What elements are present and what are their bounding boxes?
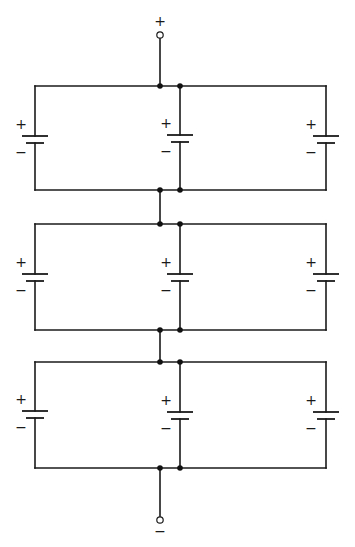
battery-cell-middle: +− — [160, 224, 193, 330]
cell-plus-label: + — [305, 254, 317, 270]
junction-dot — [157, 465, 163, 471]
junction-dot — [157, 327, 163, 333]
cell-minus-label: − — [160, 420, 172, 436]
cell-minus-label: − — [305, 420, 317, 436]
cell-minus-label: − — [160, 143, 172, 159]
negative-terminal-label: − — [154, 523, 166, 539]
positive-terminal-label: + — [154, 13, 166, 29]
terminals: +− — [154, 13, 166, 539]
bank-2: +−+−+− — [15, 224, 339, 330]
cell-plus-label: + — [15, 254, 27, 270]
cell-minus-label: − — [160, 282, 172, 298]
junction-dot — [177, 359, 183, 365]
junction-dot — [177, 187, 183, 193]
bank-1: +−+−+− — [15, 86, 339, 190]
bank-3: +−+−+− — [15, 362, 339, 468]
battery-cell-middle: +− — [160, 362, 193, 468]
battery-cell-middle: +− — [160, 86, 193, 190]
junction-dot — [157, 187, 163, 193]
battery-cell-right: +− — [305, 362, 339, 468]
battery-cell-left: +− — [15, 86, 48, 190]
battery-circuit-diagram: +− +−+−+−+−+−+−+−+−+− — [0, 0, 355, 547]
cell-plus-label: + — [305, 116, 317, 132]
positive-terminal-icon — [157, 32, 163, 38]
cell-plus-label: + — [15, 391, 27, 407]
cell-plus-label: + — [305, 392, 317, 408]
cell-minus-label: − — [305, 282, 317, 298]
battery-cell-left: +− — [15, 362, 48, 468]
cell-minus-label: − — [15, 419, 27, 435]
junction-dot — [157, 83, 163, 89]
junction-dot — [177, 465, 183, 471]
cell-minus-label: − — [15, 282, 27, 298]
junction-dot — [157, 359, 163, 365]
cell-minus-label: − — [15, 144, 27, 160]
cell-minus-label: − — [305, 144, 317, 160]
cell-plus-label: + — [160, 254, 172, 270]
cell-plus-label: + — [15, 116, 27, 132]
battery-banks: +−+−+−+−+−+−+−+−+− — [15, 86, 339, 468]
junction-dot — [177, 83, 183, 89]
battery-cell-left: +− — [15, 224, 48, 330]
cell-plus-label: + — [160, 115, 172, 131]
cell-plus-label: + — [160, 392, 172, 408]
junction-dot — [157, 221, 163, 227]
junction-dot — [177, 221, 183, 227]
battery-cell-right: +− — [305, 86, 339, 190]
junction-dot — [177, 327, 183, 333]
battery-cell-right: +− — [305, 224, 339, 330]
